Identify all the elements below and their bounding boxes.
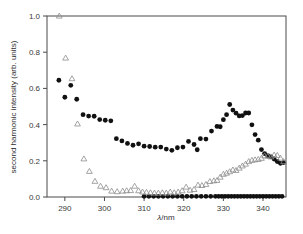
- data-point: [186, 139, 191, 144]
- data-point: [136, 141, 141, 146]
- data-point: [185, 194, 190, 199]
- data-point: [199, 194, 204, 199]
- y-tick-label: 0.6: [29, 84, 41, 93]
- data-point: [142, 144, 147, 149]
- data-series-layer: [56, 13, 286, 199]
- data-point: [98, 183, 104, 188]
- data-point: [68, 83, 73, 88]
- data-point: [194, 194, 199, 199]
- data-point: [209, 129, 214, 134]
- x-tick-label: 330: [217, 204, 231, 213]
- x-tick-label: 290: [58, 204, 72, 213]
- data-point: [69, 76, 75, 81]
- data-point: [208, 194, 213, 199]
- data-point: [114, 136, 119, 141]
- data-point: [97, 117, 102, 122]
- scatter-plot: 290300310320330340 0.00.20.40.60.81.0 λ/…: [0, 0, 303, 234]
- data-point: [74, 97, 79, 102]
- x-axis-label: λ/nm: [156, 213, 175, 222]
- data-point: [62, 95, 67, 100]
- data-point: [227, 102, 232, 107]
- data-point: [87, 168, 93, 173]
- data-point: [108, 118, 113, 123]
- data-point: [92, 114, 97, 119]
- data-point: [204, 137, 209, 142]
- data-point: [256, 138, 261, 143]
- x-tick-label: 300: [98, 204, 112, 213]
- data-point: [181, 145, 186, 150]
- data-point: [198, 136, 203, 141]
- data-point: [169, 148, 174, 153]
- data-point: [114, 189, 120, 194]
- data-point: [109, 188, 115, 193]
- data-point: [147, 144, 152, 149]
- data-point: [224, 112, 229, 117]
- data-point: [250, 122, 255, 127]
- data-point: [81, 156, 87, 161]
- y-tick-label: 0.8: [29, 48, 41, 57]
- data-point: [56, 78, 61, 83]
- data-point: [192, 142, 197, 147]
- data-point: [86, 114, 91, 119]
- data-point: [125, 141, 130, 146]
- series-open-triangles: [56, 13, 286, 195]
- data-point: [120, 138, 125, 143]
- data-point: [63, 55, 69, 60]
- y-tick-label: 0.0: [29, 193, 41, 202]
- x-tick-label: 320: [177, 204, 191, 213]
- data-point: [183, 184, 189, 189]
- data-point: [195, 147, 200, 152]
- data-point: [218, 124, 223, 129]
- data-point: [246, 111, 251, 116]
- data-point: [180, 194, 185, 199]
- data-point: [92, 178, 98, 183]
- data-point: [103, 118, 108, 123]
- data-point: [158, 145, 163, 150]
- data-point: [217, 174, 223, 179]
- data-point: [75, 121, 81, 126]
- plot-frame: [47, 16, 286, 197]
- data-point: [189, 194, 194, 199]
- data-point: [175, 145, 180, 150]
- data-point: [132, 183, 138, 188]
- data-point: [165, 194, 170, 199]
- data-point: [280, 194, 285, 199]
- x-axis-ticks: 290300310320330340: [58, 197, 270, 213]
- data-point: [81, 112, 86, 117]
- x-tick-label: 310: [137, 204, 151, 213]
- y-axis-label: second harmonic intensity (arb. units): [9, 40, 18, 173]
- data-point: [179, 188, 185, 193]
- data-point: [204, 194, 209, 199]
- y-tick-label: 1.0: [29, 12, 41, 21]
- figure-container: 290300310320330340 0.00.20.40.60.81.0 λ/…: [0, 0, 303, 234]
- y-axis-ticks: 0.00.20.40.60.81.0: [29, 12, 47, 202]
- data-point: [259, 147, 264, 152]
- data-point: [253, 132, 258, 137]
- data-point: [153, 145, 158, 150]
- y-tick-label: 0.4: [29, 121, 41, 130]
- data-point: [221, 117, 226, 122]
- data-point: [131, 143, 136, 148]
- x-tick-label: 340: [256, 204, 270, 213]
- data-point: [103, 185, 109, 190]
- data-point: [164, 147, 169, 152]
- y-tick-label: 0.2: [29, 157, 41, 166]
- series-filled-circles: [56, 78, 286, 166]
